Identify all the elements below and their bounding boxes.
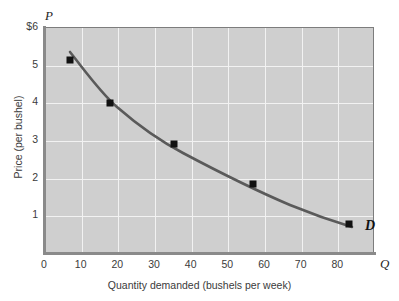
gridline-horizontal — [45, 103, 373, 104]
y-axis-title: Price (per bushel) — [12, 57, 24, 217]
x-axis-title: Quantity demanded (bushels per week) — [0, 279, 399, 291]
gridline-horizontal — [45, 66, 373, 67]
gridline-vertical — [118, 28, 119, 252]
gridline-vertical — [82, 28, 83, 252]
gridline-vertical — [338, 28, 339, 252]
demand-curve-figure: D P Q $6 5 4 3 2 1 0 10 20 30 40 50 60 7… — [0, 0, 399, 301]
x-tick-label: 80 — [322, 258, 352, 270]
series-label-d: D — [365, 218, 375, 234]
x-tick-label: 20 — [102, 258, 132, 270]
x-tick-label: 30 — [139, 258, 169, 270]
y-axis-line — [43, 26, 46, 255]
gridline-horizontal — [45, 179, 373, 180]
y-tick-label: $6 — [8, 20, 38, 32]
gridline-vertical — [265, 28, 266, 252]
x-tick-label: 10 — [66, 258, 96, 270]
x-axis-line — [43, 252, 376, 255]
plot-area — [44, 27, 374, 253]
gridline-horizontal — [45, 216, 373, 217]
gridline-vertical — [228, 28, 229, 252]
x-axis-symbol: Q — [380, 256, 389, 272]
x-tick-label: 60 — [249, 258, 279, 270]
x-tick-label: 70 — [286, 258, 316, 270]
x-tick-label: 40 — [176, 258, 206, 270]
y-axis-symbol: P — [45, 8, 53, 24]
gridline-horizontal — [45, 141, 373, 142]
gridline-vertical — [155, 28, 156, 252]
x-tick-label: 50 — [212, 258, 242, 270]
gridline-vertical — [302, 28, 303, 252]
gridline-vertical — [192, 28, 193, 252]
x-tick-label: 0 — [29, 258, 59, 270]
